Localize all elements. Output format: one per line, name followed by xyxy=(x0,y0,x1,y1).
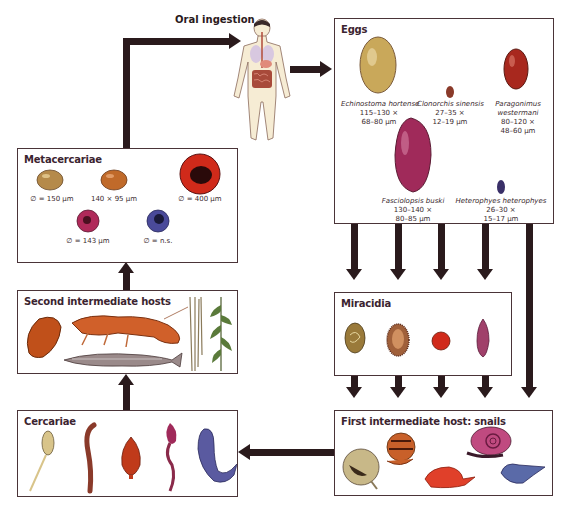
arrow-eggs-to-snails xyxy=(526,223,533,388)
second-intermediate-hosts-panel: Second intermediate hosts xyxy=(17,290,238,374)
arrow-head xyxy=(433,387,449,398)
crayfish-icon xyxy=(68,305,190,349)
eggs-title: Eggs xyxy=(341,24,367,35)
arrow-meta-to-human-horizontal xyxy=(123,38,230,45)
arrow-head-to-eggs xyxy=(320,61,332,77)
metacercaria-size-label: ∅ = n.s. xyxy=(130,237,186,246)
arrow-eggs-to-miracidia-4 xyxy=(482,223,489,270)
snail-icon xyxy=(499,457,547,487)
arrow-head xyxy=(346,387,362,398)
arrow-snails-to-cercariae xyxy=(250,449,334,456)
cercaria-icon xyxy=(80,421,102,495)
fasciolopsis-egg-icon xyxy=(391,115,435,195)
egg-size-label: 26–30 × xyxy=(453,206,549,215)
miracidia-title: Miracidia xyxy=(341,298,391,309)
human-body-digestive-icon xyxy=(228,18,296,146)
arrow-eggs-to-miracidia-1 xyxy=(351,223,358,270)
cercaria-icon xyxy=(120,435,142,481)
water-plant-stems-icon xyxy=(186,295,204,373)
water-plant-leaves-icon xyxy=(208,295,234,373)
arrow-head xyxy=(346,269,362,280)
arrow-second-hosts-to-metacercariae xyxy=(123,272,130,290)
egg-species-label: Paragonimus xyxy=(485,100,551,109)
heterophyes-egg-icon xyxy=(496,179,506,195)
metacercaria-size-label: ∅ = 143 µm xyxy=(60,237,116,246)
metacercariae-title: Metacercariae xyxy=(24,154,102,165)
metacercaria-size-label: ∅ = 400 µm xyxy=(172,195,228,204)
arrow-eggs-to-miracidia-3 xyxy=(438,223,445,270)
arrow-eggs-to-miracidia-2 xyxy=(395,223,402,270)
metacercaria-icon xyxy=(100,169,128,191)
metacercaria-icon xyxy=(76,209,100,233)
egg-species-label: westermani xyxy=(485,109,551,118)
miracidium-icon xyxy=(475,317,491,359)
first-intermediate-host-panel: First intermediate host: snails xyxy=(334,410,553,496)
metacercaria-icon xyxy=(36,169,64,191)
snail-icon xyxy=(421,461,477,491)
arrow-cercariae-to-second-hosts xyxy=(123,384,130,410)
snail-icon xyxy=(383,431,417,473)
arrow-head xyxy=(118,262,134,273)
arrow-head xyxy=(118,374,134,385)
egg-species-label: Heterophyes heterophyes xyxy=(453,197,549,206)
clonorchis-egg-icon xyxy=(445,85,455,99)
arrow-head xyxy=(390,269,406,280)
snail-icon xyxy=(341,445,381,491)
egg-species-label: Echinostoma hortense xyxy=(341,100,417,109)
arrow-head xyxy=(390,387,406,398)
miracidium-icon xyxy=(431,331,451,351)
egg-species-label: Clonorchis sinensis xyxy=(417,100,483,109)
metacercaria-size-label: 140 × 95 µm xyxy=(84,195,144,204)
echinostoma-egg-icon xyxy=(358,35,398,95)
egg-size-label: 80–85 µm xyxy=(371,215,455,224)
metacercaria-icon xyxy=(178,153,222,195)
arrow-head xyxy=(521,387,537,398)
arrow-meta-to-human-vertical xyxy=(123,38,130,149)
cercaria-icon xyxy=(196,425,240,487)
egg-size-label: 48–60 µm xyxy=(485,127,551,136)
arrow-head xyxy=(477,269,493,280)
metacercariae-panel: Metacercariae ∅ = 150 µm 140 × 95 µm ∅ =… xyxy=(17,148,238,263)
metacercaria-size-label: ∅ = 150 µm xyxy=(24,195,80,204)
cercaria-icon xyxy=(24,429,58,495)
fish-icon xyxy=(62,349,184,371)
metacercaria-icon xyxy=(146,209,170,233)
cercariae-title: Cercariae xyxy=(24,416,76,427)
clam-icon xyxy=(21,313,63,359)
snail-icon xyxy=(463,425,513,461)
miracidia-panel: Miracidia xyxy=(334,292,512,376)
egg-species-label: Fasciolopsis buski xyxy=(371,197,455,206)
paragonimus-egg-icon xyxy=(503,47,529,91)
miracidium-icon xyxy=(344,321,366,355)
egg-size-label: 130–140 × xyxy=(371,206,455,215)
cercariae-panel: Cercariae xyxy=(17,410,238,497)
egg-size-label: 15–17 µm xyxy=(453,215,549,224)
miracidium-icon xyxy=(385,321,411,359)
cercaria-icon xyxy=(158,421,182,495)
arrow-head xyxy=(477,387,493,398)
egg-size-label: 80–120 × xyxy=(485,118,551,127)
eggs-panel: Eggs Echinostoma hortense 115–130 × 68–8… xyxy=(334,18,554,224)
arrow-head xyxy=(433,269,449,280)
